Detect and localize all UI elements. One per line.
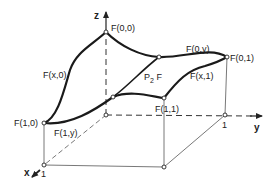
y-axis-label: y bbox=[254, 122, 260, 133]
label-f00: F(0,0) bbox=[111, 23, 135, 33]
label-f1y: F(1,y) bbox=[54, 128, 78, 138]
x-axis-label: x bbox=[24, 167, 30, 178]
point-mid-left bbox=[111, 95, 115, 99]
point-f01 bbox=[225, 55, 229, 59]
point-f11 bbox=[162, 96, 166, 100]
label-f11: F(1,1) bbox=[155, 104, 179, 114]
z-axis-label: z bbox=[94, 10, 99, 21]
y-axis-dashed bbox=[106, 115, 252, 116]
coons-patch-diagram: z y x 1 1 F(0,0) F(0,1) F(1,0) F(1,1) F(… bbox=[0, 0, 279, 186]
point-y1 bbox=[223, 113, 227, 117]
label-f10: F(1,0) bbox=[14, 118, 38, 128]
label-fx0: F(x,0) bbox=[43, 70, 67, 80]
point-f00 bbox=[104, 30, 108, 34]
label-f0y: F(0,y) bbox=[186, 44, 210, 54]
point-origin bbox=[104, 113, 108, 117]
label-f01: F(0,1) bbox=[230, 53, 254, 63]
y-tick-label: 1 bbox=[222, 120, 227, 130]
x-tick-label: 1 bbox=[41, 169, 46, 179]
surface-label-suffix: F bbox=[154, 72, 163, 82]
label-fx1: F(x,1) bbox=[190, 71, 214, 81]
surface-label: P2 F bbox=[144, 72, 162, 84]
x-axis-arrow bbox=[32, 170, 40, 177]
point-x1 bbox=[42, 163, 46, 167]
point-f10 bbox=[42, 121, 46, 125]
point-base-11 bbox=[162, 165, 166, 169]
point-mid-top bbox=[157, 55, 161, 59]
